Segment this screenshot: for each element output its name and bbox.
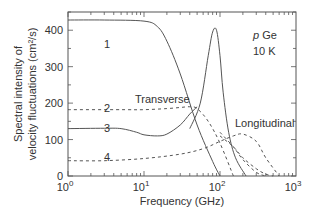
x-axis-label: Frequency (GHz)	[140, 195, 224, 207]
curve-label-2: 2	[104, 102, 110, 114]
curve-3-solid	[68, 107, 197, 136]
longitudinal-label: Longitudinal	[235, 117, 294, 129]
curve-label-3: 3	[104, 122, 110, 134]
material-label: p Ge	[252, 29, 277, 41]
x-tick-label: 100	[57, 179, 74, 193]
x-tick-labels: 100101102103	[57, 179, 302, 193]
y-tick-label: 400	[45, 24, 63, 36]
curve-4-dashed	[68, 134, 279, 176]
x-tick-label: 101	[133, 179, 150, 193]
y-tick-label: 100	[45, 134, 63, 146]
y-axis-label-line2: velocity fluctuations (cm²/s)	[26, 28, 38, 161]
y-tick-labels: 0100200300400	[45, 24, 63, 182]
curve-3-dashed	[220, 132, 266, 176]
y-tick-label: 300	[45, 61, 63, 73]
curve-label-1: 1	[104, 38, 110, 50]
curve-1-solid	[190, 28, 246, 176]
x-tick-label: 103	[285, 179, 302, 193]
temperature-label: 10 K	[253, 45, 276, 57]
curve-label-4: 4	[104, 151, 110, 163]
x-tick-label: 102	[209, 179, 226, 193]
chart: 0100200300400 100101102103 1 2 3 4 p Ge …	[0, 0, 316, 216]
curve-2-dashed	[68, 107, 233, 176]
y-tick-label: 200	[45, 97, 63, 109]
y-axis-label-line1: Spectral intensity of	[12, 45, 24, 142]
transverse-label: Transverse	[135, 93, 190, 105]
